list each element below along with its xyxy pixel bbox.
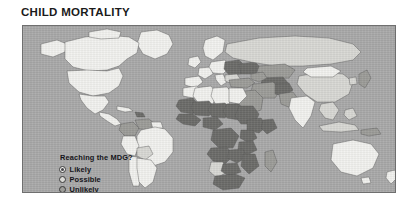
legend-label-possible: Possible <box>70 176 101 183</box>
region-west-africa-coast <box>176 114 201 126</box>
region-russia <box>225 36 361 66</box>
region-tasmania <box>361 177 371 184</box>
region-mexico <box>79 94 109 114</box>
legend-swatch-unlikely <box>59 186 66 193</box>
region-japan <box>359 70 371 88</box>
legend-swatch-likely <box>59 166 66 173</box>
page-title: CHILD MORTALITY <box>21 6 130 18</box>
legend-item-likely[interactable]: Likely <box>59 165 163 175</box>
region-british-isles <box>188 56 201 68</box>
region-india <box>289 96 315 128</box>
legend-label-likely: Likely <box>70 166 92 173</box>
region-somalia <box>261 119 277 134</box>
legend-item-possible[interactable]: Possible <box>59 175 163 185</box>
region-greenland <box>137 30 173 59</box>
region-iberia <box>185 76 203 88</box>
region-caribbean <box>135 112 145 117</box>
region-alaska <box>41 40 67 57</box>
region-asia <box>289 66 381 136</box>
region-colombia <box>119 122 139 136</box>
region-scandinavia <box>203 36 225 60</box>
region-north-america <box>41 29 173 126</box>
region-new-zealand <box>386 170 396 184</box>
region-korea <box>349 77 357 85</box>
region-oceania <box>331 140 396 184</box>
region-southeast-asia <box>319 102 339 120</box>
map-legend: Reaching the MDG? Likely Possible Unlike… <box>59 153 163 193</box>
legend-swatch-possible <box>59 176 66 183</box>
region-mongolia <box>303 66 341 77</box>
region-madagascar <box>265 150 277 172</box>
region-turkey <box>229 78 255 88</box>
region-cuba <box>117 106 133 112</box>
region-australia <box>331 140 379 176</box>
region-nigeria <box>203 117 223 130</box>
region-south-africa <box>213 174 245 190</box>
region-canada <box>65 35 139 71</box>
figure-child-mortality-map: CHILD MORTALITY <box>0 0 417 210</box>
region-arctic-islands <box>89 29 121 39</box>
region-indonesia <box>319 122 359 132</box>
region-central-america <box>99 112 121 126</box>
region-united-states <box>67 68 123 96</box>
region-philippines <box>344 108 357 120</box>
legend-title: Reaching the MDG? <box>60 153 163 162</box>
legend-label-unlikely: Unlikely <box>70 186 99 193</box>
region-dr-congo <box>211 128 239 148</box>
region-mozambique <box>241 154 259 174</box>
legend-item-unlikely[interactable]: Unlikely <box>59 185 163 193</box>
map-frame: Reaching the MDG? Likely Possible Unlike… <box>22 25 396 193</box>
region-papua-new-guinea <box>361 128 381 136</box>
